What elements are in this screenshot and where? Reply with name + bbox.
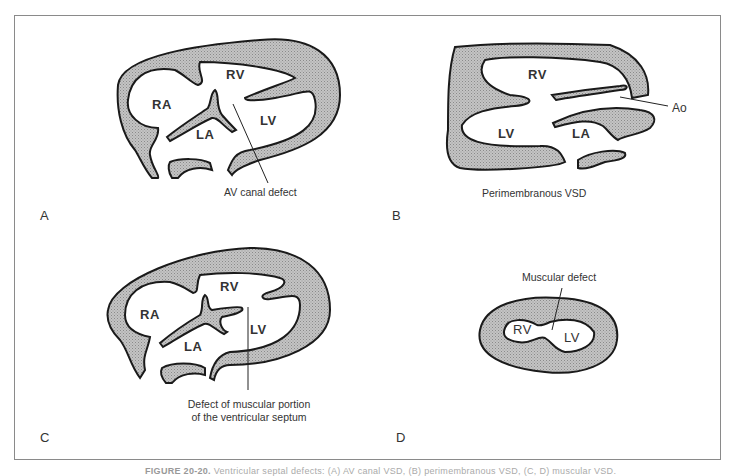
panel-b-label-rv: RV xyxy=(528,67,547,82)
panel-c-annotation-line2: of the ventricular septum xyxy=(150,411,348,424)
panel-b-label-la: LA xyxy=(572,126,590,141)
panel-a-heart xyxy=(118,39,340,178)
panel-d-label-lv: LV xyxy=(564,330,580,345)
panel-b-aorta-pointer xyxy=(620,97,668,106)
panel-a-letter: A xyxy=(40,208,49,223)
panel-c-label-rv: RV xyxy=(220,279,239,294)
panel-c-annotation-line1: Defect of muscular portion xyxy=(150,398,348,411)
panel-a-label-lv: LV xyxy=(260,113,277,128)
panel-d-letter: D xyxy=(396,430,405,445)
panel-b-heart xyxy=(447,43,654,169)
panel-c-label-la: LA xyxy=(184,339,202,354)
panel-d-label-rv: RV xyxy=(513,322,532,337)
figure-caption: FIGURE 20-20. Ventricular septal defects… xyxy=(145,466,616,476)
heart-diagrams xyxy=(0,0,736,476)
panel-d-annotation: Muscular defect xyxy=(522,271,596,283)
panel-a-annotation: AV canal defect xyxy=(224,186,297,198)
panel-a-label-la: LA xyxy=(196,127,214,142)
panel-c-label-ra: RA xyxy=(140,307,160,322)
panel-a-label-rv: RV xyxy=(226,67,245,82)
panel-b-letter: B xyxy=(392,208,401,223)
caption-number: FIGURE 20-20. xyxy=(145,466,211,476)
panel-c-annotation: Defect of muscular portion of the ventri… xyxy=(150,398,348,424)
panel-b-annotation: Perimembranous VSD xyxy=(482,187,586,199)
panel-d-heart xyxy=(479,297,617,372)
panel-b-aorta-label: Ao xyxy=(672,101,687,115)
panel-c-letter: C xyxy=(40,430,49,445)
caption-text: Ventricular septal defects: (A) AV canal… xyxy=(214,466,616,476)
panel-a-label-ra: RA xyxy=(152,97,172,112)
panel-b-label-lv: LV xyxy=(498,126,515,141)
panel-c-label-lv: LV xyxy=(250,322,267,337)
